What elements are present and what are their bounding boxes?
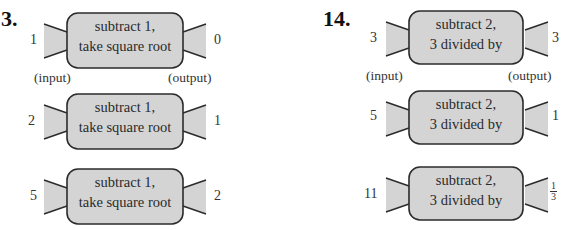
output-value: 1 (214, 113, 221, 129)
fraction-numerator: 1 (551, 181, 556, 191)
input-value: 11 (364, 186, 377, 202)
machine-line-1: subtract 2, (409, 14, 523, 34)
function-machine: subtract 1,take square root (43, 168, 207, 226)
output-value: 1 (552, 108, 559, 124)
machine-line-1: subtract 2, (409, 94, 523, 114)
input-value: 5 (370, 108, 377, 124)
function-machine: subtract 1,take square root (43, 93, 207, 151)
output-value: 3 (552, 30, 559, 46)
machine-line-1: subtract 2, (409, 170, 523, 190)
input-value: 3 (370, 30, 377, 46)
function-machine: subtract 2,3 divided by (385, 166, 549, 224)
function-machine: subtract 2,3 divided by (385, 10, 549, 68)
output-label: (output) (508, 68, 552, 84)
problem-number-14: 14. (323, 6, 351, 32)
machine-line-2: take square root (67, 36, 183, 56)
machine-line-1: subtract 1, (67, 16, 183, 36)
fraction-denominator: 3 (551, 192, 556, 202)
machine-line-2: 3 divided by (409, 114, 523, 134)
output-value: 2 (214, 188, 221, 204)
input-label: (input) (366, 68, 403, 84)
machine-line-2: 3 divided by (409, 34, 523, 54)
machine-line-1: subtract 1, (67, 97, 183, 117)
output-value: 0 (214, 32, 221, 48)
output-fraction: 1 3 (550, 181, 557, 202)
problem-number-3: 3. (1, 6, 18, 32)
input-label: (input) (34, 70, 71, 86)
input-value: 5 (30, 188, 37, 204)
input-value: 2 (28, 113, 35, 129)
function-machine: subtract 2,3 divided by (385, 90, 549, 148)
output-label: (output) (168, 70, 212, 86)
input-value: 1 (30, 32, 37, 48)
machine-line-2: 3 divided by (409, 190, 523, 210)
function-machine: subtract 1,take square root (43, 12, 207, 70)
machine-line-2: take square root (67, 117, 183, 137)
machine-line-1: subtract 1, (67, 172, 183, 192)
machine-line-2: take square root (67, 192, 183, 212)
